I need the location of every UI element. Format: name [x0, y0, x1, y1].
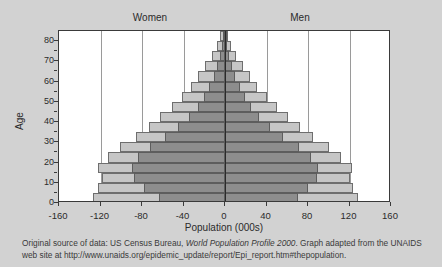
table-row — [59, 163, 389, 173]
x-axis-tick-label: 120 — [341, 210, 357, 221]
x-axis-tick-mark — [58, 202, 59, 206]
table-row — [59, 51, 389, 61]
with-aids-women-bar — [144, 183, 225, 193]
y-axis-tick-label: 50 — [44, 96, 54, 106]
with-aids-women-bar — [178, 122, 225, 132]
x-axis-tick-label: 40 — [260, 210, 271, 221]
table-row — [59, 152, 389, 162]
center-axis-line-top — [225, 31, 226, 201]
caption-text-1: Original source of data: US Census Burea… — [22, 238, 186, 248]
with-aids-women-bar — [204, 92, 225, 102]
table-row — [59, 41, 389, 51]
table-row — [59, 132, 389, 142]
table-row — [59, 142, 389, 152]
x-axis-tick-label: -120 — [90, 210, 109, 221]
with-aids-men-bar — [225, 71, 235, 81]
y-axis-tick-label: 60 — [44, 76, 54, 86]
table-row — [59, 173, 389, 183]
x-axis-tick-mark — [266, 202, 267, 206]
x-axis-tick-mark — [141, 202, 142, 206]
y-axis-tick-label: 10 — [44, 177, 54, 187]
table-row — [59, 193, 389, 202]
x-axis-tick-mark — [183, 202, 184, 206]
with-aids-women-bar — [150, 142, 225, 152]
x-axis-title: Population (000s) — [58, 222, 390, 233]
caption-italic-title: World Population Profile 2000 — [186, 238, 296, 248]
with-aids-women-bar — [209, 82, 225, 92]
with-aids-men-bar — [225, 193, 298, 202]
y-axis-minor-tick — [54, 172, 57, 173]
y-axis-minor-tick — [54, 50, 57, 51]
with-aids-men-bar — [225, 183, 308, 193]
x-axis-tick-label: -40 — [176, 210, 190, 221]
with-aids-women-bar — [159, 193, 225, 202]
table-row — [59, 122, 389, 132]
with-aids-women-bar — [189, 112, 225, 122]
with-aids-men-bar — [225, 92, 245, 102]
bar-rows — [59, 31, 389, 201]
x-axis-tick-label: 0 — [221, 210, 226, 221]
x-axis-tick-mark — [307, 202, 308, 206]
y-axis-minor-tick — [54, 91, 57, 92]
with-aids-men-bar — [225, 102, 251, 112]
table-row — [59, 82, 389, 92]
y-axis-tick-label: 40 — [44, 116, 54, 126]
with-aids-men-bar — [225, 132, 283, 142]
table-row — [59, 92, 389, 102]
x-axis-tick-mark — [349, 202, 350, 206]
series-label-men: Men — [290, 12, 309, 23]
plot-wrapper — [58, 30, 390, 202]
table-row — [59, 61, 389, 71]
population-pyramid-figure: Women Men 01020304050607080 Age -160-120… — [0, 0, 442, 267]
with-aids-women-bar — [138, 152, 225, 162]
y-axis-tick-label: 70 — [44, 55, 54, 65]
with-aids-men-bar — [225, 142, 299, 152]
with-aids-women-bar — [198, 102, 225, 112]
y-axis-minor-tick — [54, 111, 57, 112]
with-aids-men-bar — [225, 152, 311, 162]
with-aids-men-bar — [225, 82, 240, 92]
table-row — [59, 112, 389, 122]
y-axis-title: Age — [14, 112, 25, 130]
x-axis-tick-label: 160 — [382, 210, 398, 221]
y-axis-minor-tick — [54, 70, 57, 71]
with-aids-men-bar — [225, 173, 317, 183]
x-axis-tick-label: -160 — [48, 210, 67, 221]
with-aids-men-bar — [225, 61, 232, 71]
y-axis-minor-tick — [54, 131, 57, 132]
x-axis-tick-mark — [390, 202, 391, 206]
y-axis-tick-label: 80 — [44, 35, 54, 45]
with-aids-women-bar — [134, 173, 225, 183]
x-axis-tick-label: 80 — [302, 210, 313, 221]
with-aids-men-bar — [225, 112, 259, 122]
y-axis-minor-tick — [54, 192, 57, 193]
x-axis-tick-label: -80 — [134, 210, 148, 221]
table-row — [59, 31, 389, 41]
y-axis-minor-tick — [54, 151, 57, 152]
with-aids-women-bar — [132, 163, 225, 173]
table-row — [59, 102, 389, 112]
x-axis-tick-mark — [100, 202, 101, 206]
plot-area — [58, 30, 390, 202]
y-axis-tick-label: 30 — [44, 136, 54, 146]
y-axis-tick-label: 20 — [44, 157, 54, 167]
with-aids-women-bar — [165, 132, 225, 142]
with-aids-women-bar — [214, 71, 225, 81]
figure-caption: Original source of data: US Census Burea… — [22, 238, 426, 262]
with-aids-women-bar — [217, 61, 225, 71]
y-axis: 01020304050607080 — [26, 30, 54, 202]
with-aids-men-bar — [225, 122, 270, 132]
with-aids-men-bar — [225, 163, 318, 173]
table-row — [59, 71, 389, 81]
series-label-women: Women — [133, 12, 167, 23]
table-row — [59, 183, 389, 193]
x-axis-tick-mark — [224, 202, 225, 206]
